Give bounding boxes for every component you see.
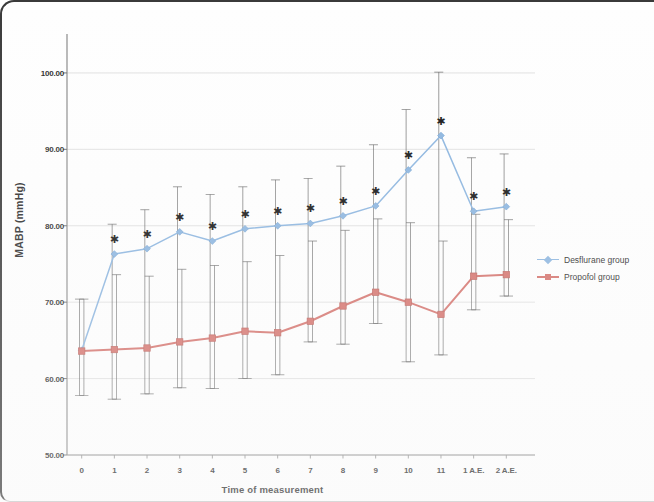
legend-item-desflurane[interactable]: Desflurane group — [537, 251, 629, 268]
significance-asterisk: ✱ — [208, 220, 217, 233]
significance-asterisk: ✱ — [306, 202, 315, 215]
error-bar — [341, 230, 350, 344]
x-axis-tick-label: 4 — [210, 466, 214, 475]
error-bar — [402, 110, 411, 362]
significance-asterisk: ✱ — [175, 211, 184, 224]
y-axis-title: MABP (mmHg) — [13, 160, 25, 280]
significance-asterisk: ✱ — [436, 115, 445, 128]
significance-asterisk: ✱ — [338, 195, 347, 208]
x-axis-tick-label: 3 — [177, 466, 181, 475]
data-point-marker — [144, 345, 150, 351]
data-point-marker — [176, 339, 182, 345]
error-bar — [145, 276, 154, 394]
error-bar — [471, 214, 480, 310]
y-axis-tick-label: 60.00 — [18, 374, 64, 383]
data-point-marker — [307, 318, 313, 324]
error-bar — [308, 241, 317, 342]
error-bar — [369, 145, 378, 324]
x-axis-tick-label: 11 — [437, 466, 445, 475]
data-point-marker — [209, 335, 215, 341]
legend-swatch-desflurane — [537, 255, 559, 265]
data-point-marker — [470, 273, 476, 279]
x-axis-tick-label: 0 — [80, 466, 84, 475]
y-axis-tick-label: 90.00 — [18, 145, 64, 154]
x-axis-tick-label: 2 A.E. — [496, 466, 517, 475]
error-bar — [336, 166, 345, 344]
y-axis-tick-label: 50.00 — [18, 451, 64, 460]
error-bar — [210, 265, 219, 388]
significance-asterisk: ✱ — [502, 186, 511, 199]
error-bar — [79, 299, 88, 395]
x-axis-tick-label: 1 A.E. — [463, 466, 484, 475]
x-axis-tick-label: 9 — [373, 466, 377, 475]
data-point-marker — [78, 348, 84, 354]
x-axis-tick-label: 7 — [308, 466, 312, 475]
error-bar — [108, 224, 117, 399]
legend-label-propofol: Propofol group — [564, 272, 620, 282]
x-axis-tick-label: 1 — [112, 466, 116, 475]
data-point-marker — [274, 330, 280, 336]
significance-asterisk: ✱ — [404, 149, 413, 162]
significance-asterisk: ✱ — [240, 208, 249, 221]
x-axis-tick-label: 2 — [145, 466, 149, 475]
significance-asterisk: ✱ — [469, 190, 478, 203]
legend-swatch-propofol — [537, 272, 559, 282]
chart-figure: ✱✱✱✱✱✱✱✱✱✱✱✱✱ 50.0060.0070.0080.0090.001… — [0, 0, 654, 502]
data-point-marker — [438, 311, 444, 317]
series-line — [82, 136, 507, 351]
legend-item-propofol[interactable]: Propofol group — [537, 268, 629, 285]
data-point-marker — [372, 289, 378, 295]
error-bar — [373, 219, 382, 324]
error-bar — [243, 262, 252, 379]
significance-asterisk: ✱ — [371, 185, 380, 198]
x-axis-tick-label: 8 — [341, 466, 345, 475]
significance-asterisk: ✱ — [110, 233, 119, 246]
error-bar — [177, 269, 186, 387]
significance-asterisk: ✱ — [142, 228, 151, 241]
error-bar — [406, 223, 415, 362]
y-axis-tick-label: 100.00 — [18, 68, 64, 77]
data-point-marker — [503, 271, 509, 277]
x-axis-title: Time of measurement — [0, 484, 545, 495]
chart-legend: Desflurane group Propofol group — [537, 251, 629, 285]
significance-asterisk: ✱ — [273, 205, 282, 218]
error-bar — [439, 241, 448, 355]
x-axis-tick-label: 10 — [404, 466, 413, 475]
error-bar — [275, 256, 284, 375]
y-axis-tick-label: 70.00 — [18, 298, 64, 307]
data-point-marker — [111, 346, 117, 352]
data-point-marker — [242, 328, 248, 334]
data-point-marker — [405, 299, 411, 305]
error-bar — [504, 220, 513, 296]
x-axis-tick-label: 5 — [243, 466, 247, 475]
legend-label-desflurane: Desflurane group — [564, 255, 629, 265]
data-point-marker — [340, 303, 346, 309]
error-bar — [467, 158, 476, 310]
x-axis-tick-label: 6 — [275, 466, 279, 475]
error-bar — [112, 275, 121, 400]
